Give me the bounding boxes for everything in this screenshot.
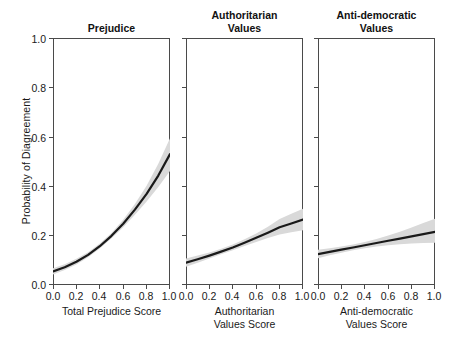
x-tick-label-4: 0.8	[139, 290, 154, 302]
x-tick-4	[279, 285, 280, 289]
y-tick-2	[182, 186, 186, 187]
y-tick-4	[182, 87, 186, 88]
x-tick-1	[76, 285, 77, 289]
y-tick-label-4: 0.8	[31, 82, 46, 94]
panel-authoritarian-values: Authoritarian Values 0.0 0.2 0.4 0.6 0.8…	[186, 38, 303, 285]
figure-panel-container: Probability of Diagreement Prejudice 0.0…	[0, 0, 450, 338]
plot-area-prejudice	[53, 38, 170, 285]
plot-area-authoritarian-values	[186, 38, 303, 285]
x-tick-3	[256, 285, 257, 289]
y-tick-label-0: 0.0	[31, 279, 46, 291]
x-tick-4	[146, 285, 147, 289]
y-tick-3: 0.6	[49, 137, 53, 138]
x-tick-5	[169, 285, 170, 289]
x-tick-label-5: 1.0	[295, 290, 310, 302]
x-axis-label-line-1: Authoritarian	[214, 305, 276, 318]
x-tick-label-1: 0.2	[334, 290, 349, 302]
x-tick-label-2: 0.4	[92, 290, 107, 302]
x-tick-label-3: 0.6	[381, 290, 396, 302]
x-tick-4	[411, 285, 412, 289]
x-tick-3	[123, 285, 124, 289]
y-tick-5: 1.0	[49, 38, 53, 39]
y-tick-label-5: 1.0	[31, 33, 46, 45]
x-tick-label-5: 1.0	[162, 290, 177, 302]
x-tick-label-2: 0.4	[357, 290, 372, 302]
y-tick-5	[314, 38, 318, 39]
x-tick-label-3: 0.6	[116, 290, 131, 302]
y-tick-2	[314, 186, 318, 187]
panel-title-line-2: Values	[337, 22, 417, 35]
x-tick-label-0: 0.0	[311, 290, 326, 302]
fitted-line	[53, 154, 170, 271]
panel-title-authoritarian-values: Authoritarian Values	[212, 9, 278, 34]
x-tick-label-1: 0.2	[202, 290, 217, 302]
x-axis-label-anti-democratic-values: Anti-democratic Values Score	[340, 305, 413, 330]
x-tick-label-5: 1.0	[427, 290, 442, 302]
x-axis-label-line-1: Anti-democratic	[340, 305, 413, 318]
x-tick-2	[232, 285, 233, 289]
x-tick-label-2: 0.4	[225, 290, 240, 302]
panel-title-anti-democratic-values: Anti-democratic Values	[337, 9, 417, 34]
y-tick-label-2: 0.4	[31, 181, 46, 193]
x-tick-5	[434, 285, 435, 289]
y-tick-1: 0.2	[49, 235, 53, 236]
plot-area-anti-democratic-values	[318, 38, 435, 285]
x-tick-label-1: 0.2	[69, 290, 84, 302]
y-tick-label-1: 0.2	[31, 230, 46, 242]
panel-title-prejudice: Prejudice	[88, 22, 135, 35]
x-axis-label-line-1: Total Prejudice Score	[62, 305, 161, 318]
x-tick-0	[318, 285, 319, 289]
y-tick-5	[182, 38, 186, 39]
panel-title-line-1: Anti-democratic	[337, 9, 417, 22]
x-tick-label-0: 0.0	[179, 290, 194, 302]
y-tick-2: 0.4	[49, 186, 53, 187]
y-tick-1	[314, 235, 318, 236]
y-tick-1	[182, 235, 186, 236]
y-tick-4: 0.8	[49, 87, 53, 88]
x-axis-label-line-2: Values Score	[214, 318, 276, 331]
x-axis-label-authoritarian-values: Authoritarian Values Score	[214, 305, 276, 330]
panel-title-line-2: Values	[212, 22, 278, 35]
x-tick-3	[388, 285, 389, 289]
panel-anti-democratic-values: Anti-democratic Values 0.0 0.2 0.4 0.6 0…	[318, 38, 435, 285]
x-tick-label-3: 0.6	[249, 290, 264, 302]
y-tick-label-3: 0.6	[31, 132, 46, 144]
x-tick-label-0: 0.0	[46, 290, 61, 302]
x-tick-label-4: 0.8	[404, 290, 419, 302]
x-tick-1	[341, 285, 342, 289]
confidence-band	[318, 219, 435, 259]
x-tick-2	[99, 285, 100, 289]
x-tick-5	[302, 285, 303, 289]
panel-title-line-1: Authoritarian	[212, 9, 278, 22]
y-tick-3	[314, 137, 318, 138]
x-tick-0	[53, 285, 54, 289]
y-tick-4	[314, 87, 318, 88]
x-tick-2	[364, 285, 365, 289]
x-tick-label-4: 0.8	[272, 290, 287, 302]
x-tick-0	[186, 285, 187, 289]
panel-prejudice: Prejudice 0.0 0.2 0.4 0.6 0.8 1.0 0.0 0.…	[53, 38, 170, 285]
y-axis-label: Probability of Diagreement	[20, 71, 32, 251]
x-axis-label-line-2: Values Score	[340, 318, 413, 331]
confidence-band	[53, 138, 170, 274]
x-tick-1	[209, 285, 210, 289]
panel-title-line-1: Prejudice	[88, 22, 135, 35]
x-axis-label-prejudice: Total Prejudice Score	[62, 305, 161, 318]
y-tick-3	[182, 137, 186, 138]
